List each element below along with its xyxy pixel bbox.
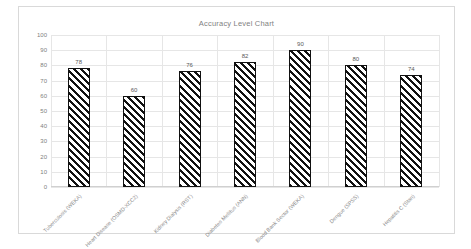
bar-value-label: 74 xyxy=(408,66,415,72)
y-axis-tick-label: 50 xyxy=(40,108,47,114)
bar[interactable] xyxy=(123,96,145,187)
bar[interactable] xyxy=(234,62,256,187)
y-axis-tick-label: 30 xyxy=(40,138,47,144)
bar-value-label: 78 xyxy=(75,59,82,65)
y-axis-tick-label: 0 xyxy=(44,184,47,190)
gridline xyxy=(51,187,439,188)
x-axis-category-label: Heart Disease (OSMD-XCC2) xyxy=(84,193,139,248)
y-axis-tick-label: 20 xyxy=(40,154,47,160)
x-axis-category-label: Dengue (SPSS) xyxy=(329,193,360,224)
y-axis-tick-label: 60 xyxy=(40,93,47,99)
bar[interactable] xyxy=(68,68,90,187)
bar-value-label: 60 xyxy=(131,87,138,93)
x-axis-category-label: Blood Bank Sector (WEKA) xyxy=(254,193,305,244)
bar[interactable] xyxy=(179,71,201,187)
bar-slot: 74Hepatitis C (Stan) xyxy=(384,35,439,187)
bar-value-label: 80 xyxy=(353,56,360,62)
bar-slot: 82Diabetes Mellitus (ANN) xyxy=(217,35,272,187)
chart-figure: Accuracy Level Chart 1009080706050403020… xyxy=(18,6,455,234)
bar-slot: 60Heart Disease (OSMD-XCC2) xyxy=(106,35,161,187)
y-axis-tick-label: 10 xyxy=(40,169,47,175)
plot-area: 1009080706050403020100 78Tuberculosis (W… xyxy=(51,35,439,187)
bar-slot: 80Dengue (SPSS) xyxy=(328,35,383,187)
bar-slot: 78Tuberculosis (WEKA) xyxy=(51,35,106,187)
bar-value-label: 90 xyxy=(297,41,304,47)
y-axis-tick-label: 70 xyxy=(40,78,47,84)
y-axis-tick-label: 80 xyxy=(40,62,47,68)
bar[interactable] xyxy=(289,50,311,187)
x-axis-category-label: Tuberculosis (WEKA) xyxy=(42,193,83,234)
x-axis-category-label: Diabetes Mellitus (ANN) xyxy=(204,193,249,238)
bar-value-label: 76 xyxy=(186,62,193,68)
y-axis-tick-label: 90 xyxy=(40,47,47,53)
chart-title: Accuracy Level Chart xyxy=(19,19,454,28)
y-axis-tick-label: 40 xyxy=(40,123,47,129)
y-axis-tick-label: 100 xyxy=(37,32,47,38)
bar-value-label: 82 xyxy=(242,53,249,59)
bar[interactable] xyxy=(345,65,367,187)
bar-slot: 90Blood Bank Sector (WEKA) xyxy=(273,35,328,187)
x-axis-category-label: Hepatitis C (Stan) xyxy=(381,193,415,227)
x-axis-category-label: Kidney Dialysis (RST) xyxy=(152,193,193,234)
bar[interactable] xyxy=(400,75,422,187)
category-separator xyxy=(439,35,440,187)
bar-slot: 76Kidney Dialysis (RST) xyxy=(162,35,217,187)
